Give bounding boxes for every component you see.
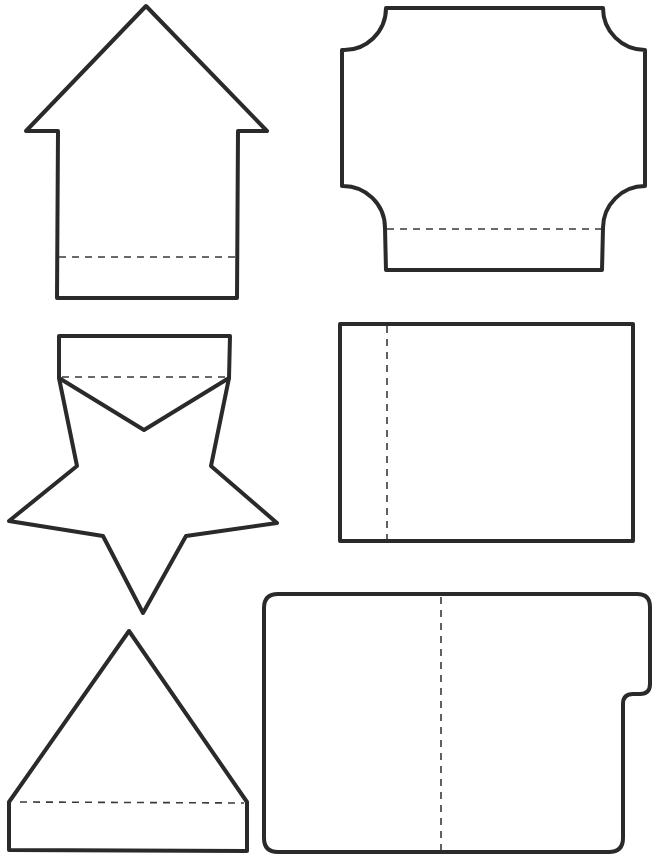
house-cut-outline [26,6,267,298]
file-folder-shape [264,594,650,852]
template-sheet [0,0,652,854]
rectangle-shape [340,324,633,541]
rectangle-cut-outline [340,324,633,541]
star-with-tab-shape [9,336,277,613]
scalloped-rectangle-shape [342,8,645,270]
scalloped-rectangle-cut-outline [342,8,645,270]
file-folder-cut-outline [264,594,650,852]
triangle-cut-outline [9,631,247,851]
triangle-with-tab-shape [9,631,247,851]
house-shape [26,6,267,298]
